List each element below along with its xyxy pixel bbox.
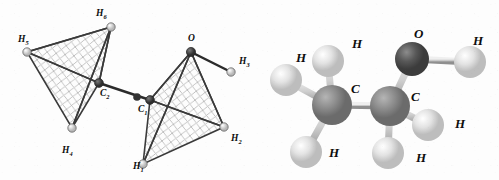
h-methylene-dn-sphere — [372, 137, 404, 169]
ball-and-stick-panel: H H O H C C H H H — [248, 0, 499, 180]
label-h-methyl-upper: H — [351, 36, 363, 51]
label-H2: H2 — [230, 133, 242, 145]
h6-vertex — [107, 23, 115, 31]
label-c-methylene: C — [411, 89, 420, 104]
label-H6: H6 — [95, 8, 107, 20]
tetrahedral-diagram-panel: H6 H5 O H3 C2 C1 H2 H4 H1 — [0, 0, 255, 180]
h2-vertex — [220, 123, 228, 131]
label-h-methylene-lo: H — [415, 150, 427, 165]
tetrahedron-c1 — [143, 52, 224, 164]
o-vertex — [186, 47, 195, 56]
carbon-methyl-sphere — [312, 85, 352, 125]
label-h-hydroxyl: H — [472, 33, 484, 48]
bond-node — [133, 93, 141, 101]
molecular-structure-figure: H6 H5 O H3 C2 C1 H2 H4 H1 — [0, 0, 499, 180]
h-methyl-up-sphere — [312, 45, 344, 77]
tetrahedron-c2 — [27, 27, 111, 128]
h-methyl-down-sphere — [290, 136, 322, 168]
tetrahedral-diagram-svg: H6 H5 O H3 C2 C1 H2 H4 H1 — [0, 0, 255, 180]
oxygen-sphere — [395, 42, 429, 76]
h-methyl-left-sphere — [270, 64, 302, 96]
c1-center — [146, 96, 155, 105]
ball-and-stick-svg: H H O H C C H H H — [248, 0, 499, 180]
h5-vertex — [23, 48, 31, 56]
label-C2: C2 — [100, 88, 110, 100]
hydroxyl-h-sphere — [454, 46, 486, 78]
label-O: O — [188, 33, 195, 43]
label-h-methyl-top: H — [295, 50, 307, 65]
h4-vertex — [68, 124, 76, 132]
label-H5: H5 — [17, 34, 29, 46]
label-o-hydroxyl: O — [414, 26, 424, 41]
h3-vertex — [227, 68, 235, 76]
carbon-methylene-sphere — [370, 86, 410, 126]
label-C1: C1 — [138, 104, 148, 116]
c2-center — [95, 79, 104, 88]
label-h-methylene-rt: H — [454, 116, 466, 131]
label-c-methyl: C — [351, 81, 360, 96]
h-methylene-rt-sphere — [412, 109, 444, 141]
label-H4: H4 — [61, 145, 73, 157]
label-h-methyl-low: H — [328, 145, 340, 160]
